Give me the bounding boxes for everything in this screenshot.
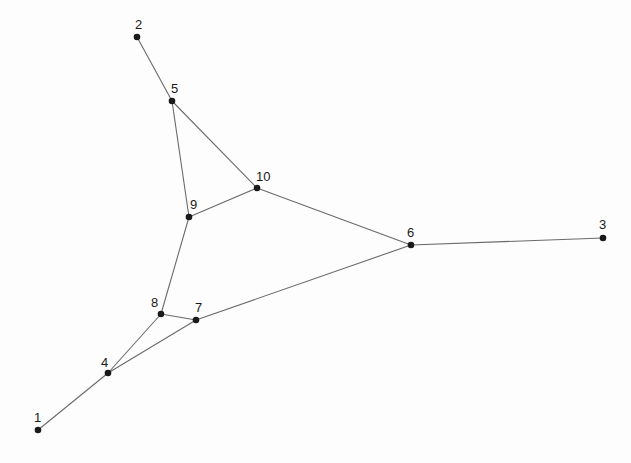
edge-8-4	[108, 314, 161, 373]
node-label-5: 5	[171, 81, 178, 96]
node-label-10: 10	[256, 169, 270, 184]
node-6	[408, 242, 415, 249]
edge-6-3	[411, 238, 603, 245]
edge-5-9	[172, 101, 189, 217]
graph-diagram: 12345678910	[0, 0, 631, 463]
node-2	[134, 34, 141, 41]
node-10	[254, 185, 261, 192]
node-label-2: 2	[135, 17, 142, 32]
node-3	[600, 235, 607, 242]
node-label-4: 4	[101, 355, 108, 370]
edge-7-6	[196, 245, 411, 320]
edge-10-6	[257, 188, 411, 245]
node-4	[105, 370, 112, 377]
node-label-7: 7	[195, 300, 202, 315]
edge-9-8	[161, 217, 189, 314]
node-label-8: 8	[151, 295, 158, 310]
nodes-layer	[35, 34, 607, 434]
node-1	[35, 427, 42, 434]
edge-8-7	[161, 314, 196, 320]
edge-5-10	[172, 101, 257, 188]
edges-layer	[38, 37, 603, 430]
node-label-3: 3	[599, 217, 606, 232]
node-label-9: 9	[190, 197, 197, 212]
node-9	[186, 214, 193, 221]
edge-4-1	[38, 373, 108, 430]
edge-2-5	[137, 37, 172, 101]
node-label-6: 6	[407, 225, 414, 240]
edge-4-7	[108, 320, 196, 373]
node-8	[158, 311, 165, 318]
edge-9-10	[189, 188, 257, 217]
labels-layer: 12345678910	[34, 17, 606, 425]
node-7	[193, 317, 200, 324]
node-label-1: 1	[34, 410, 41, 425]
node-5	[169, 98, 176, 105]
